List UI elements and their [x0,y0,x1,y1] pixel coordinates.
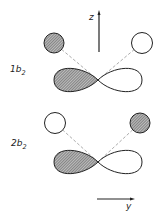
orbital-label-1b2: 1b2 [10,64,26,77]
y-axis: y [97,198,135,212]
ligand-circle-open [132,33,153,54]
p-lobe-open [98,68,142,91]
z-axis: z [88,10,101,52]
orbital-diagram: z 1b2 2b2 y [0,0,159,214]
ligand-circle-shaded [130,113,150,133]
ligand-circle-shaded [44,33,64,53]
y-axis-label: y [125,201,132,211]
p-lobe-shaded [54,150,98,173]
orbital-2b2: 2b2 [11,113,150,174]
p-lobe-shaded [54,68,98,91]
orbital-label-2b2: 2b2 [11,138,27,151]
orbital-1b2: 1b2 [10,33,153,92]
p-lobe-open [98,150,142,173]
z-axis-label: z [88,12,94,22]
ligand-circle-open [45,113,66,134]
